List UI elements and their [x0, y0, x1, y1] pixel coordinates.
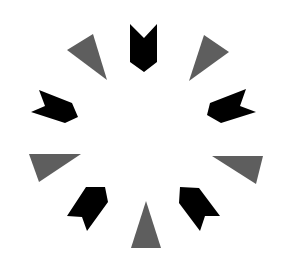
spinner-graphic — [0, 0, 288, 269]
loading-spinner-icon — [0, 0, 288, 269]
